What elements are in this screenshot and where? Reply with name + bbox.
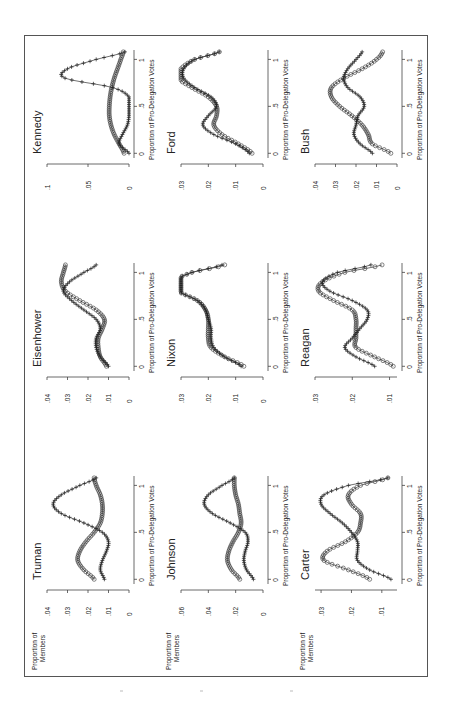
plus-marker (354, 355, 358, 359)
plus-marker (91, 82, 95, 86)
y-axis-label: Members (173, 634, 180, 662)
y-tick-label: .02 (205, 181, 212, 190)
x-tick-label: 1 (406, 484, 413, 488)
plus-marker (116, 87, 120, 91)
scan-speck (120, 690, 123, 692)
y-tick-label: .01 (386, 394, 393, 403)
y-axis-label: Proportion of (165, 633, 173, 670)
scan-speck (290, 690, 293, 692)
plus-marker (70, 487, 74, 491)
y-axis-label: Proportion of (299, 633, 307, 670)
plus-marker (206, 267, 210, 271)
x-tick-label: 0 (406, 578, 413, 582)
x-tick-label: 0 (406, 365, 413, 369)
plus-marker (101, 557, 105, 561)
plus-marker (72, 517, 76, 521)
plus-marker (85, 269, 89, 273)
circle-series-line (330, 52, 391, 153)
x-axis-label: Proportion of Pro-Delegation Votes (148, 272, 156, 373)
plus-marker (227, 480, 231, 484)
plus-marker (104, 549, 108, 553)
x-tick-label: .5 (406, 529, 413, 535)
plus-marker (51, 502, 55, 506)
plus-marker (106, 545, 110, 549)
x-tick-label: .5 (272, 529, 279, 535)
y-tick-label: 0 (260, 186, 267, 190)
plus-marker (212, 133, 216, 137)
plus-marker (81, 61, 85, 65)
plus-marker (318, 498, 322, 502)
x-axis-label: Proportion of Pro-Delegation Votes (282, 59, 290, 160)
x-tick-label: .5 (138, 529, 145, 535)
plus-marker (235, 525, 239, 529)
y-tick-label: .1 (44, 184, 51, 190)
y-tick-label: .01 (378, 607, 385, 616)
y-axis-label: Proportion of (31, 633, 39, 670)
x-tick-label: 1 (138, 484, 145, 488)
plus-marker (362, 102, 366, 106)
plus-marker (73, 276, 77, 280)
plus-marker (100, 560, 104, 564)
plus-marker (243, 564, 247, 568)
plus-marker (328, 289, 332, 293)
y-tick-label: .02 (348, 607, 355, 616)
plus-marker (217, 515, 221, 519)
plus-marker (216, 134, 220, 138)
plus-marker (354, 300, 358, 304)
panel-title: Truman (31, 543, 43, 581)
plus-marker (378, 478, 382, 482)
plus-marker (70, 65, 74, 69)
x-tick-label: .5 (272, 316, 279, 322)
plus-marker (181, 74, 185, 78)
plus-marker (356, 540, 360, 544)
plus-marker (209, 131, 213, 135)
x-tick-label: 1 (138, 58, 145, 62)
plus-marker (202, 500, 206, 504)
small-multiples-chart: TrumanProportion ofMembers0.01.02.03.040… (25, 36, 427, 676)
plus-marker (87, 480, 91, 484)
plus-marker (372, 570, 376, 574)
x-axis-label: Proportion of Pro-Delegation Votes (148, 485, 156, 586)
x-axis-label: Proportion of Pro-Delegation Votes (416, 272, 424, 373)
plus-marker (102, 56, 106, 60)
y-tick-label: .01 (232, 181, 239, 190)
x-tick-label: 0 (406, 152, 413, 156)
y-tick-label: .04 (44, 394, 51, 403)
plus-marker (100, 559, 104, 563)
plus-marker (66, 67, 70, 71)
plus-marker (107, 540, 111, 544)
plus-marker (66, 489, 70, 493)
plus-marker (352, 129, 356, 133)
plus-marker (389, 577, 393, 581)
y-tick-label: .04 (44, 607, 51, 616)
plus-marker (353, 127, 357, 131)
scan-speck (200, 690, 203, 692)
x-tick-label: 0 (272, 578, 279, 582)
plus-marker (90, 525, 94, 529)
x-tick-label: 0 (138, 578, 145, 582)
plus-marker (243, 551, 247, 555)
y-tick-label: 0 (394, 186, 401, 190)
y-tick-label: .01 (105, 607, 112, 616)
plus-marker (351, 353, 355, 357)
plus-marker (225, 519, 229, 523)
panel-title: Carter (299, 549, 311, 580)
plus-marker (99, 564, 103, 568)
plus-marker (82, 521, 86, 525)
plus-marker (367, 312, 371, 316)
y-tick-label: .03 (64, 394, 71, 403)
plus-marker (346, 483, 350, 487)
plus-marker (228, 521, 232, 525)
plus-marker (102, 575, 106, 579)
y-tick-label: .02 (232, 607, 239, 616)
panel-title: Eisenhower (31, 309, 43, 367)
plus-marker (88, 59, 92, 63)
plus-marker (75, 63, 79, 67)
plus-marker (350, 299, 354, 303)
plus-marker (79, 272, 83, 276)
plus-marker (201, 121, 205, 125)
plus-marker (243, 549, 247, 553)
y-tick-label: .04 (312, 181, 319, 190)
plus-marker (60, 74, 64, 78)
y-tick-label: .02 (205, 394, 212, 403)
